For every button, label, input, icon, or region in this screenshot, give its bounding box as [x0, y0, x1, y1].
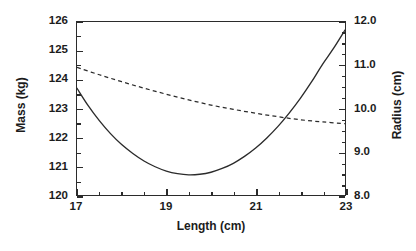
y-axis-left-tick-minor	[77, 65, 81, 66]
y-axis-left-tick-label: 124	[0, 73, 68, 85]
y-axis-right-tick-label: 12.0	[354, 15, 394, 27]
x-axis-tick-major	[256, 189, 257, 195]
x-axis-tick-major	[166, 189, 167, 195]
x-axis-title: Length (cm)	[76, 219, 346, 233]
x-axis-tick-label: 21	[236, 201, 276, 213]
y-axis-right-tick-minor	[342, 131, 346, 132]
y-axis-left-tick-label: 122	[0, 132, 68, 144]
y-axis-left-tick-minor	[77, 36, 81, 37]
x-axis-tick-label: 17	[56, 201, 96, 213]
y-axis-right-tick-minor	[342, 54, 346, 55]
y-axis-left-tick-major	[77, 21, 83, 22]
y-axis-right-tick-major	[339, 153, 345, 154]
y-axis-left-tick-major	[77, 51, 83, 52]
y-axis-left-tick-minor	[77, 94, 81, 95]
y-axis-left-tick-major	[77, 80, 83, 81]
curves-svg	[77, 22, 345, 195]
y-axis-left-tick-label: 123	[0, 103, 68, 115]
y-axis-right-tick-minor	[342, 142, 346, 143]
x-axis-tick-minor	[211, 192, 212, 196]
y-axis-right-tick-minor	[342, 185, 346, 186]
x-axis-tick-minor	[234, 192, 235, 196]
y-axis-right-tick-minor	[342, 120, 346, 121]
y-axis-left-tick-minor	[77, 182, 81, 183]
y-axis-right-tick-major	[339, 109, 345, 110]
y-axis-right-tick-major	[339, 196, 345, 197]
x-axis-tick-minor	[144, 192, 145, 196]
y-axis-right-tick-major	[339, 21, 345, 22]
y-axis-right-tick-minor	[342, 76, 346, 77]
y-axis-right-tick-minor	[342, 174, 346, 175]
y-axis-right-tick-minor	[342, 43, 346, 44]
chart-figure: 1201211221231241251268.09.010.011.012.01…	[0, 0, 416, 251]
x-axis-tick-label: 19	[146, 201, 186, 213]
y-axis-left-tick-label: 125	[0, 44, 68, 56]
y-axis-left-tick-major	[77, 109, 83, 110]
y-axis-left-tick-minor	[77, 153, 81, 154]
y-axis-right-tick-minor	[342, 87, 346, 88]
y-axis-right-tick-minor	[342, 32, 346, 33]
x-axis-tick-label: 23	[326, 201, 366, 213]
x-axis-tick-minor	[121, 192, 122, 196]
y-axis-left-tick-label: 121	[0, 161, 68, 173]
x-axis-tick-minor	[279, 192, 280, 196]
x-axis-tick-minor	[99, 192, 100, 196]
plot-area	[76, 21, 346, 196]
y-axis-right-tick-minor	[342, 98, 346, 99]
y-axis-left-tick-minor	[77, 123, 81, 124]
y-axis-left-tick-major	[77, 196, 83, 197]
series-line-mass	[77, 30, 345, 175]
y-axis-right-tick-label: 11.0	[354, 59, 394, 71]
y-axis-right-title: Radius (cm)	[390, 45, 404, 165]
y-axis-right-tick-minor	[342, 164, 346, 165]
y-axis-right-tick-major	[339, 65, 345, 66]
x-axis-tick-major	[76, 189, 77, 195]
y-axis-right-tick-label: 8.0	[354, 190, 394, 202]
y-axis-left-tick-major	[77, 167, 83, 168]
y-axis-left-tick-major	[77, 138, 83, 139]
y-axis-left-tick-label: 126	[0, 15, 68, 27]
x-axis-tick-minor	[189, 192, 190, 196]
y-axis-right-tick-label: 10.0	[354, 103, 394, 115]
y-axis-left-title: Mass (kg)	[14, 45, 28, 165]
x-axis-tick-minor	[324, 192, 325, 196]
x-axis-tick-major	[346, 189, 347, 195]
series-line-radius	[77, 67, 345, 123]
y-axis-left-tick-label: 120	[0, 190, 68, 202]
y-axis-right-tick-label: 9.0	[354, 146, 394, 158]
x-axis-tick-minor	[301, 192, 302, 196]
